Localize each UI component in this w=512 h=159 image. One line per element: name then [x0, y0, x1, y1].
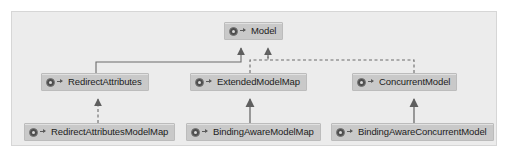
public-visibility-icon	[57, 78, 64, 87]
node-glyphs	[357, 78, 375, 87]
node-glyphs	[29, 128, 47, 137]
node-glyphs	[229, 27, 247, 36]
class-node-concurrent-model[interactable]: ConcurrentModel	[352, 73, 457, 91]
node-glyphs	[191, 128, 209, 137]
class-icon	[195, 78, 204, 87]
public-visibility-icon	[202, 128, 209, 137]
public-visibility-icon	[368, 78, 375, 87]
class-icon	[336, 128, 345, 137]
node-glyphs	[195, 78, 213, 87]
class-node-redirect-attributes[interactable]: RedirectAttributes	[41, 73, 149, 91]
node-glyphs	[336, 128, 354, 137]
class-icon	[29, 128, 38, 137]
class-node-label: Model	[251, 26, 276, 36]
class-icon	[46, 78, 55, 87]
class-icon	[229, 27, 238, 36]
public-visibility-icon	[240, 27, 247, 36]
uml-class-diagram: Model RedirectAttributes ExtendedModelMa…	[0, 0, 512, 159]
class-node-label: RedirectAttributes	[68, 77, 142, 87]
class-node-label: RedirectAttributesModelMap	[51, 127, 168, 137]
class-node-extended-model-map[interactable]: ExtendedModelMap	[190, 73, 307, 91]
class-node-label: BindingAwareModelMap	[213, 127, 314, 137]
class-icon	[191, 128, 200, 137]
public-visibility-icon	[347, 128, 354, 137]
node-glyphs	[46, 78, 64, 87]
class-node-binding-aware-concurrent-model[interactable]: BindingAwareConcurrentModel	[331, 123, 494, 141]
public-visibility-icon	[206, 78, 213, 87]
class-node-label: ExtendedModelMap	[217, 77, 300, 87]
class-node-label: ConcurrentModel	[379, 77, 450, 87]
class-node-model[interactable]: Model	[224, 22, 283, 40]
class-node-binding-aware-model-map[interactable]: BindingAwareModelMap	[186, 123, 321, 141]
class-icon	[357, 78, 366, 87]
class-node-redirect-attributes-model-map[interactable]: RedirectAttributesModelMap	[24, 123, 175, 141]
class-node-label: BindingAwareConcurrentModel	[358, 127, 487, 137]
public-visibility-icon	[40, 128, 47, 137]
